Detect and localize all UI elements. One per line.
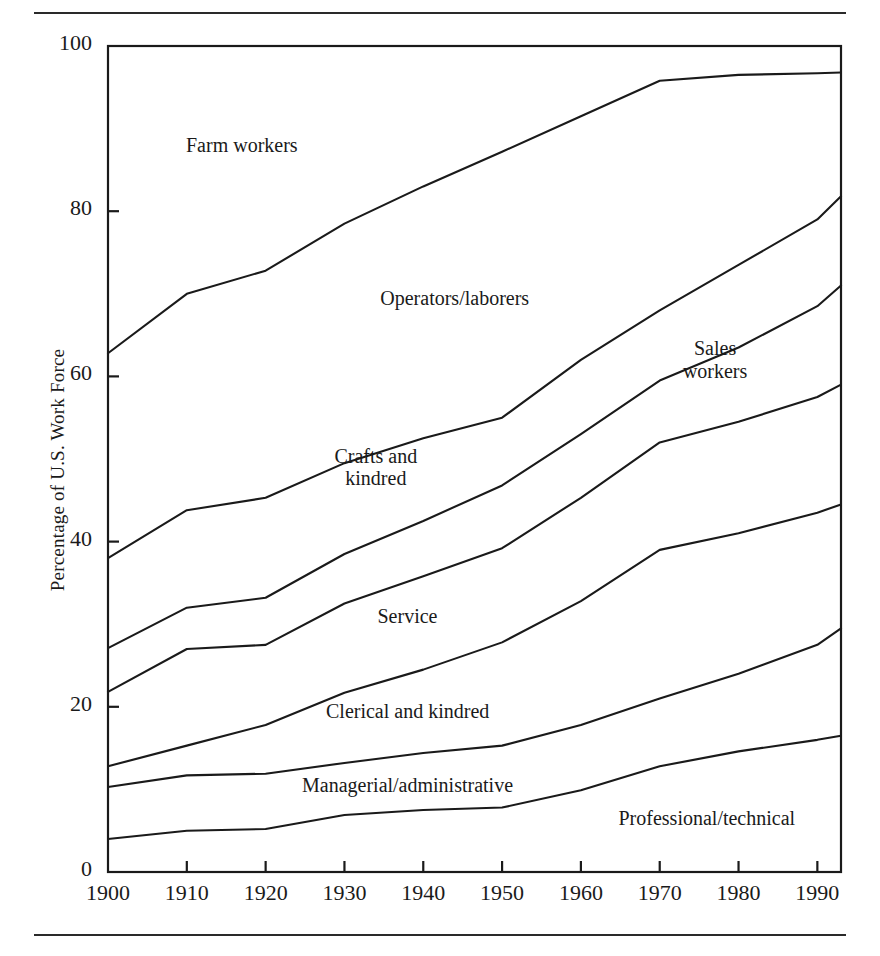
x-tick-label: 1970 <box>615 880 705 906</box>
series-label-service: Service <box>378 605 438 627</box>
x-tick-label: 1910 <box>142 880 232 906</box>
y-tick-label: 100 <box>32 30 92 56</box>
x-tick-label: 1960 <box>536 880 626 906</box>
y-tick-label: 0 <box>32 856 92 882</box>
x-tick-label: 1980 <box>694 880 784 906</box>
x-tick-label: 1920 <box>221 880 311 906</box>
y-tick-label: 20 <box>32 691 92 717</box>
ticks-group <box>108 211 817 872</box>
series-label-operators-laborers: Operators/laborers <box>380 287 529 309</box>
series-lines-group <box>108 72 841 839</box>
x-tick-label: 1940 <box>378 880 468 906</box>
series-boundary-line <box>108 385 841 692</box>
x-tick-label: 1900 <box>63 880 153 906</box>
y-tick-label: 40 <box>32 526 92 552</box>
series-label-farm-workers: Farm workers <box>186 134 298 156</box>
series-label-crafts-and-kindred: Crafts andkindred <box>334 445 417 490</box>
y-tick-label: 80 <box>32 195 92 221</box>
x-tick-label: 1930 <box>299 880 389 906</box>
y-axis-title: Percentage of U.S. Work Force <box>47 260 69 680</box>
series-label-professional-technical: Professional/technical <box>619 807 796 829</box>
series-label-clerical-and-kindred: Clerical and kindred <box>326 700 489 722</box>
series-boundary-line <box>108 72 841 353</box>
x-tick-label: 1990 <box>772 880 862 906</box>
x-tick-label: 1950 <box>457 880 547 906</box>
series-label-sales-workers: Salesworkers <box>683 337 747 382</box>
series-boundary-line <box>108 504 841 766</box>
y-tick-label: 60 <box>32 360 92 386</box>
figure-container: Percentage of U.S. Work Force 0204060801… <box>0 0 880 956</box>
series-label-managerial-administrative: Managerial/administrative <box>302 774 513 796</box>
